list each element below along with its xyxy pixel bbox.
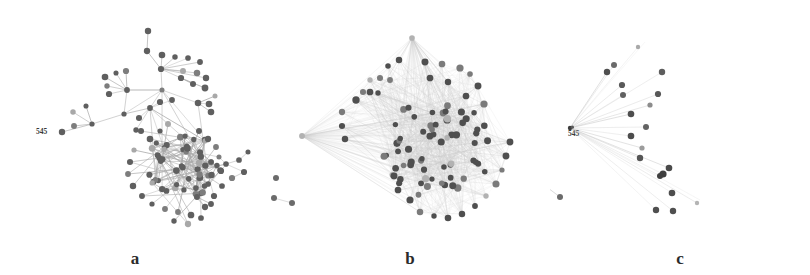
- network-figure: 545 a 545 b 545 c: [0, 0, 810, 275]
- panel-a-graph: [0, 0, 270, 275]
- panel-c-graph: [550, 0, 810, 275]
- panel-a: 545 a: [0, 0, 270, 275]
- node-label-545-panel-a: 545: [36, 128, 47, 136]
- panel-c: 545 c: [550, 0, 810, 275]
- panel-caption-a: a: [0, 249, 270, 269]
- panel-caption-c: c: [550, 249, 810, 269]
- panel-b: 545 b: [270, 0, 550, 275]
- panel-caption-b: b: [270, 249, 550, 269]
- panel-b-graph: [270, 0, 550, 275]
